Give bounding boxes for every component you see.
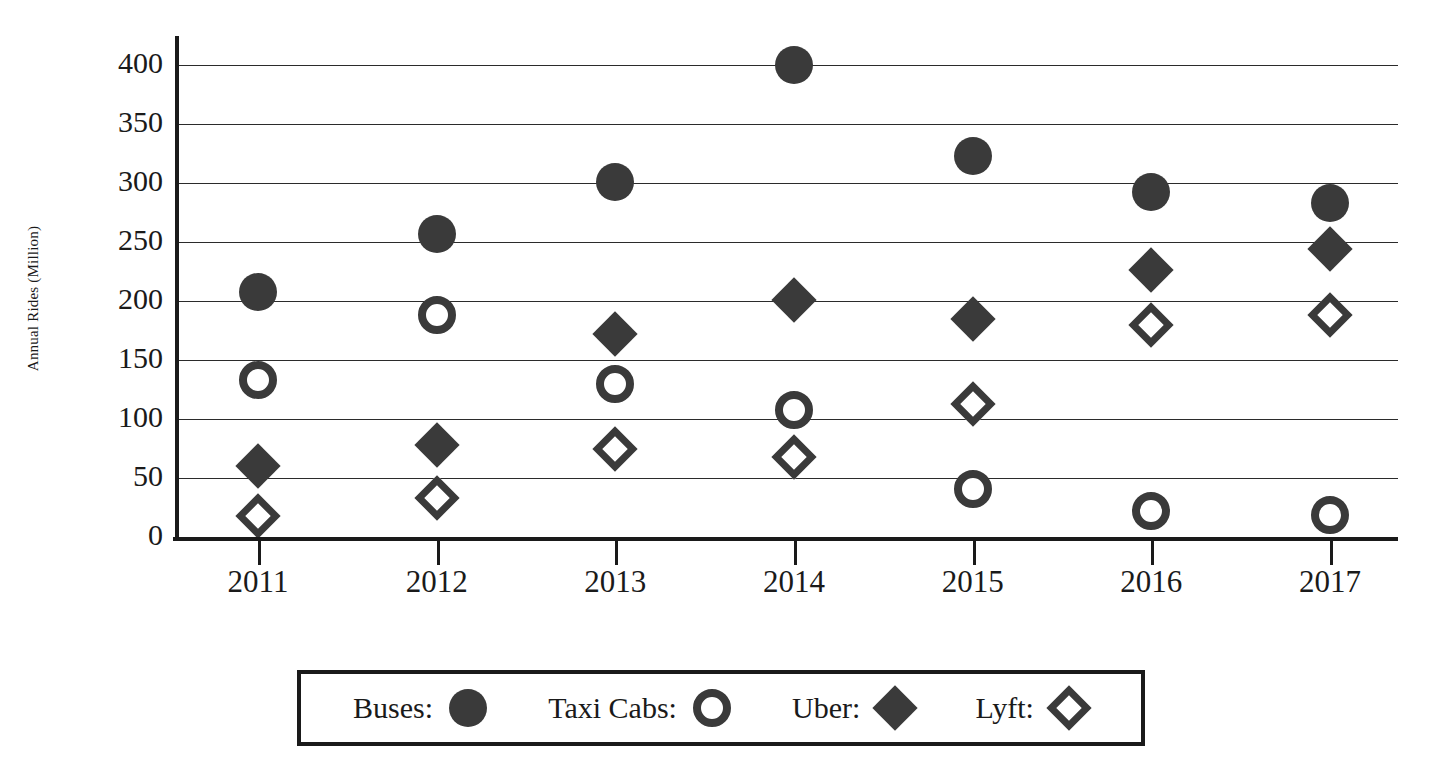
legend-label: Uber: (792, 693, 860, 723)
legend-entry-taxi-cabs[interactable]: Taxi Cabs: (548, 688, 732, 728)
chart-legend: Buses:Taxi Cabs:Uber:Lyft: (297, 670, 1145, 746)
data-point-uber[interactable] (414, 422, 459, 467)
data-point-buses[interactable] (418, 215, 456, 253)
gridline (175, 183, 1398, 184)
data-point-uber[interactable] (771, 277, 816, 322)
legend-label: Buses: (353, 693, 433, 723)
data-point-uber[interactable] (235, 444, 280, 489)
x-axis-tick (973, 539, 976, 565)
data-point-taxi-cabs[interactable] (596, 365, 634, 403)
data-point-taxi-cabs[interactable] (954, 470, 992, 508)
y-axis-tick-label: 250 (43, 225, 163, 255)
x-axis-tick (1330, 539, 1333, 565)
x-axis-tick-label: 2013 (535, 566, 695, 597)
data-point-taxi-cabs[interactable] (239, 361, 277, 399)
data-point-uber[interactable] (593, 311, 638, 356)
x-axis-tick (437, 539, 440, 565)
data-point-lyft[interactable] (1307, 293, 1352, 338)
data-point-uber[interactable] (1307, 226, 1352, 271)
marker-glyph (873, 685, 918, 730)
data-point-lyft[interactable] (1129, 302, 1174, 347)
data-point-buses[interactable] (596, 163, 634, 201)
legend-entry-lyft[interactable]: Lyft: (976, 688, 1089, 728)
data-point-lyft[interactable] (235, 493, 280, 538)
y-axis-tick-label: 400 (43, 48, 163, 78)
data-point-buses[interactable] (775, 46, 813, 84)
legend-entry-buses[interactable]: Buses: (353, 688, 488, 728)
x-axis-spine (173, 537, 1398, 541)
data-point-uber[interactable] (1129, 248, 1174, 293)
data-point-taxi-cabs[interactable] (775, 391, 813, 429)
gridline (175, 242, 1398, 243)
data-point-uber[interactable] (950, 296, 995, 341)
x-axis-tick-label: 2011 (178, 566, 338, 597)
x-axis-tick (615, 539, 618, 565)
chart-figure: Annual Rides (Million) 05010015020025030… (0, 0, 1434, 784)
gridline (175, 124, 1398, 125)
data-point-buses[interactable] (1311, 184, 1349, 222)
data-point-lyft[interactable] (593, 426, 638, 471)
x-axis-tick-label: 2016 (1071, 566, 1231, 597)
legend-marker-circle-open-icon (692, 688, 732, 728)
gridline (175, 360, 1398, 361)
legend-marker-diamond-open-icon (1049, 688, 1089, 728)
marker-glyph (449, 689, 487, 727)
x-axis-tick (258, 539, 261, 565)
plot-area (175, 38, 1398, 538)
x-axis-tick-label: 2015 (893, 566, 1053, 597)
x-axis-tick-label: 2017 (1250, 566, 1410, 597)
data-point-lyft[interactable] (414, 475, 459, 520)
marker-glyph (693, 689, 731, 727)
legend-marker-diamond-filled-icon (875, 688, 915, 728)
y-axis-tick-label: 350 (43, 107, 163, 137)
data-point-taxi-cabs[interactable] (1311, 496, 1349, 534)
data-point-buses[interactable] (239, 273, 277, 311)
x-axis-tick (1151, 539, 1154, 565)
data-point-buses[interactable] (954, 137, 992, 175)
y-axis-tick-label: 200 (43, 284, 163, 314)
y-axis-tick-label: 300 (43, 166, 163, 196)
data-point-taxi-cabs[interactable] (418, 296, 456, 334)
y-axis-tick-label: 0 (43, 520, 163, 550)
data-point-taxi-cabs[interactable] (1132, 492, 1170, 530)
legend-entry-uber[interactable]: Uber: (792, 688, 915, 728)
x-axis-tick-label: 2012 (357, 566, 517, 597)
legend-label: Taxi Cabs: (548, 693, 677, 723)
x-axis-tick (794, 539, 797, 565)
data-point-buses[interactable] (1132, 173, 1170, 211)
y-axis-tick-label: 50 (43, 461, 163, 491)
marker-glyph (1046, 685, 1091, 730)
y-axis-tick-label: 100 (43, 402, 163, 432)
y-axis-tick-label: 150 (43, 343, 163, 373)
y-axis-spine (175, 36, 179, 539)
x-axis-tick-label: 2014 (714, 566, 874, 597)
gridline (175, 478, 1398, 479)
data-point-lyft[interactable] (771, 434, 816, 479)
legend-label: Lyft: (976, 693, 1034, 723)
legend-marker-circle-filled-icon (448, 688, 488, 728)
y-axis-title: Annual Rides (Million) (25, 204, 42, 394)
